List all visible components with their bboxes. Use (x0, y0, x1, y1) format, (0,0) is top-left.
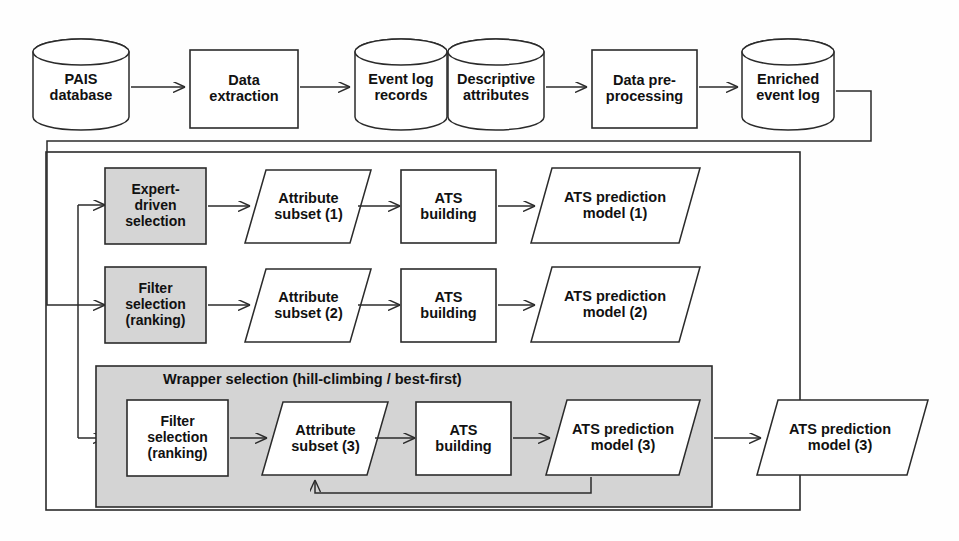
filter-selection-ranking-3-node (127, 400, 228, 476)
data-preprocessing-node (592, 50, 697, 128)
attribute-subset-2-node (245, 269, 371, 342)
ats-building-1-node (401, 170, 496, 243)
expert-driven-selection-node (105, 168, 206, 244)
data-extraction-node (190, 50, 298, 128)
ats-building-2-node (401, 269, 496, 342)
event-log-records-node (355, 39, 447, 130)
enriched-event-log-node (742, 39, 834, 130)
ats-building-3-node (416, 402, 511, 475)
attribute-subset-3-node (262, 402, 388, 475)
diagram-canvas: PAIS database Data extraction Event log … (0, 0, 959, 541)
wrapper-selection-panel-title: Wrapper selection (hill-climbing / best-… (163, 371, 462, 387)
ats-prediction-model-1-node (531, 168, 700, 243)
ats-prediction-model-2-node (531, 267, 700, 342)
ats-prediction-model-3-inner-node (546, 400, 700, 475)
ats-prediction-model-3-output-node (757, 400, 928, 475)
descriptive-attributes-node (448, 39, 544, 130)
pais-database-node (33, 39, 129, 130)
diagram-svg (0, 0, 959, 541)
filter-selection-ranking-2-node (105, 267, 206, 343)
attribute-subset-1-node (245, 170, 371, 243)
